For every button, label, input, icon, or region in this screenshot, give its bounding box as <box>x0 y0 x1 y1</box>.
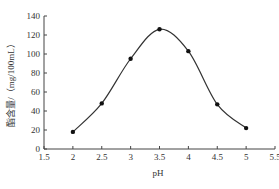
data-markers <box>71 27 249 134</box>
y-tick-label: 60 <box>31 87 41 97</box>
line-chart: 020406080100120140 1.522.533.544.555.5 p… <box>0 0 279 189</box>
x-tick-label: 4.5 <box>212 152 224 162</box>
data-point <box>215 102 219 106</box>
data-point <box>157 27 161 31</box>
x-tick-label: 1.5 <box>38 152 50 162</box>
x-tick-label: 3 <box>128 152 133 162</box>
y-tick-label: 80 <box>31 68 41 78</box>
y-axis: 020406080100120140 <box>27 11 48 154</box>
x-tick-label: 2 <box>71 152 76 162</box>
y-tick-label: 140 <box>27 11 41 21</box>
y-tick-label: 40 <box>31 106 41 116</box>
data-point <box>244 126 248 130</box>
x-axis: 1.522.533.544.555.5 <box>38 146 279 162</box>
y-tick-label: 20 <box>31 125 41 135</box>
data-point <box>128 57 132 61</box>
y-tick-label: 100 <box>27 49 41 59</box>
data-point <box>100 101 104 105</box>
y-tick-label: 120 <box>27 30 41 40</box>
data-line <box>73 29 246 132</box>
y-axis-title: 酯含量/（mg/100mL） <box>5 39 16 127</box>
x-axis-title: pH <box>153 168 165 178</box>
x-tick-label: 5 <box>244 152 249 162</box>
x-tick-label: 5.5 <box>269 152 279 162</box>
data-point <box>186 49 190 53</box>
x-tick-label: 4 <box>186 152 191 162</box>
x-tick-label: 3.5 <box>154 152 166 162</box>
x-tick-label: 2.5 <box>96 152 108 162</box>
data-point <box>71 130 75 134</box>
